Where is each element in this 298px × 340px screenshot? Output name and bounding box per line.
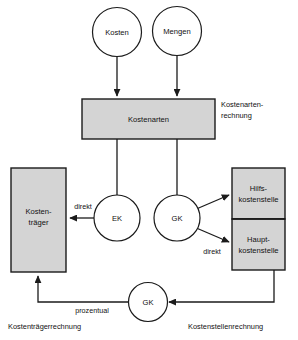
caption-kostenstellenrechnung: Kostenstellenrechnung bbox=[188, 322, 263, 331]
kosten-circle-label: Kosten bbox=[105, 28, 129, 37]
kostenarten-box-label: Kostenarten bbox=[128, 115, 169, 124]
kostentraeger-box-label-line2: träger bbox=[29, 218, 49, 227]
node-gk-bottom: GK bbox=[129, 283, 168, 322]
connector-gk-to-hauptkostenstelle bbox=[194, 227, 229, 242]
kostenartenrechnung-label-line2: rechnung bbox=[221, 111, 252, 120]
cost-accounting-diagram: Kosten Mengen Kostenarten Kostenarten- r… bbox=[0, 0, 298, 340]
node-mengen: Mengen bbox=[153, 7, 202, 56]
side-label-kostenartenrechnung: Kostenarten- rechnung bbox=[221, 100, 264, 120]
node-kostenarten: Kostenarten bbox=[82, 99, 215, 139]
mengen-circle-label: Mengen bbox=[163, 27, 190, 36]
node-gk-mid: GK bbox=[154, 195, 200, 241]
edge-label-direkt-right: direkt bbox=[203, 247, 221, 256]
kostentraeger-box-label-line1: Kosten- bbox=[25, 207, 52, 216]
connector-bottom-gk-to-kostentraeger bbox=[38, 276, 129, 302]
hauptkostenstelle-label-line1: Haupt- bbox=[247, 235, 270, 244]
ek-circle-label: EK bbox=[112, 214, 122, 223]
node-kostentraeger: Kosten- träger bbox=[11, 168, 66, 272]
diagram-canvas: Kosten Mengen Kostenarten Kostenarten- r… bbox=[0, 0, 298, 340]
node-kostenstellen-stack: Hilfs- kostenstelle Haupt- kostenstelle bbox=[232, 168, 285, 270]
node-kosten: Kosten bbox=[93, 8, 142, 57]
gk-mid-circle-label: GK bbox=[172, 214, 183, 223]
caption-kostentraegerrechnung: Kostenträgerrechnung bbox=[8, 322, 81, 331]
kostenartenrechnung-label-line1: Kostenarten- bbox=[221, 100, 264, 109]
connector-gk-to-hilfskostenstelle bbox=[194, 195, 229, 210]
hauptkostenstelle-label-line2: kostenstelle bbox=[238, 246, 278, 255]
connector-hauptkostenstelle-to-bottom-gk bbox=[169, 270, 274, 302]
edge-label-direkt-left: direkt bbox=[74, 202, 92, 211]
node-ek: EK bbox=[94, 195, 140, 241]
hilfskostenstelle-box-shape bbox=[232, 168, 285, 219]
hilfskostenstelle-label-line1: Hilfs- bbox=[250, 184, 268, 193]
hilfskostenstelle-label-line2: kostenstelle bbox=[238, 195, 278, 204]
gk-bottom-circle-label: GK bbox=[143, 298, 154, 307]
hauptkostenstelle-box-shape bbox=[232, 219, 285, 270]
edge-label-prozentual: prozentual bbox=[75, 306, 109, 315]
